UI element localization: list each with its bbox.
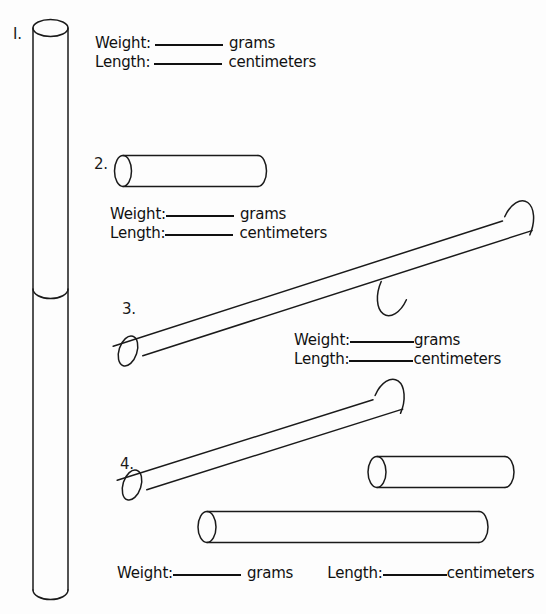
- item-1-weight-row: Weight:grams: [95, 34, 316, 53]
- worksheet-sheet: I. Weight:grams Length:centimeters 2. We…: [0, 0, 546, 614]
- item-3-length-row: Length:centimeters: [294, 350, 501, 369]
- length-blank-1[interactable]: [154, 63, 222, 65]
- length-unit: centimeters: [447, 564, 535, 583]
- cylinder-3-right-cap: [502, 197, 540, 235]
- item-number-1: I.: [13, 25, 22, 43]
- length-label: Length:: [327, 564, 382, 583]
- cylinder-4-diagonal: [117, 375, 410, 502]
- item-4-fields: Weight:gramsLength:centimeters: [117, 564, 534, 583]
- weight-unit: grams: [247, 564, 293, 583]
- weight-blank-4[interactable]: [173, 574, 241, 576]
- cylinder-1-vertical: [33, 20, 68, 600]
- weight-label: Weight:: [95, 34, 151, 53]
- cylinder-1-seam: [33, 289, 68, 299]
- length-label: Length:: [110, 224, 165, 243]
- cylinder-4-right-cap: [372, 375, 410, 413]
- weight-blank-2[interactable]: [166, 215, 234, 217]
- weight-unit: grams: [240, 205, 286, 224]
- length-label: Length:: [294, 350, 349, 369]
- length-blank-4[interactable]: [383, 574, 447, 576]
- weight-label: Weight:: [294, 331, 350, 350]
- length-unit: centimeters: [228, 53, 316, 72]
- cylinder-6-horizontal-lower: [198, 512, 488, 543]
- weight-label: Weight:: [110, 205, 166, 224]
- item-1-fields: Weight:grams Length:centimeters: [95, 34, 316, 72]
- item-2-fields: Weight:grams Length:centimeters: [110, 205, 327, 243]
- length-unit: centimeters: [413, 350, 501, 369]
- length-blank-2[interactable]: [165, 234, 233, 236]
- item-3-weight-row: Weight:grams: [294, 331, 501, 350]
- item-2-weight-row: Weight:grams: [110, 205, 327, 224]
- item-2-length-row: Length:centimeters: [110, 224, 327, 243]
- item-number-4: 4.: [120, 455, 134, 473]
- cylinder-3-left-cap: [115, 333, 142, 368]
- item-3-fields: Weight:grams Length:centimeters: [294, 331, 501, 369]
- item-number-3: 3.: [122, 300, 136, 318]
- item-4-fields-row: Weight:gramsLength:centimeters: [117, 564, 534, 583]
- weight-unit: grams: [414, 331, 460, 350]
- cylinder-5-horizontal-right: [368, 457, 514, 488]
- item-number-2: 2.: [94, 155, 108, 173]
- length-unit: centimeters: [239, 224, 327, 243]
- weight-label: Weight:: [117, 564, 173, 583]
- cylinder-3-seam: [371, 281, 409, 319]
- cylinder-2-horizontal: [115, 156, 267, 187]
- item-1-length-row: Length:centimeters: [95, 53, 316, 72]
- length-blank-3[interactable]: [349, 360, 413, 362]
- weight-blank-1[interactable]: [155, 44, 223, 46]
- weight-unit: grams: [229, 34, 275, 53]
- cylinder-illustrations: [0, 0, 546, 614]
- length-label: Length:: [95, 53, 150, 72]
- weight-blank-3[interactable]: [350, 341, 414, 343]
